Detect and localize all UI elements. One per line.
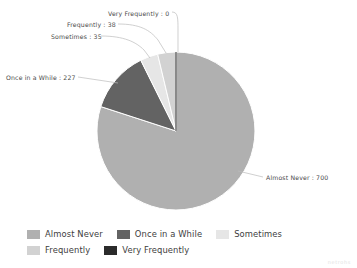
legend-label: Frequently [45,245,90,255]
callout-almost-never: Almost Never : 700 [266,174,328,181]
callout-very-frequently: Very Frequently : 0 [108,10,169,17]
callout-once-in-a-while: Once in a While : 227 [6,74,76,81]
callout-frequently: Frequently : 38 [67,21,116,28]
chart-legend: Almost Never Once in a While Sometimes F… [27,228,337,260]
leader-line-frequently [118,24,166,53]
callout-sometimes: Sometimes : 35 [51,33,102,40]
legend-item-once-in-a-while[interactable]: Once in a While [117,228,202,240]
legend-item-almost-never[interactable]: Almost Never [27,228,103,240]
legend-item-very-frequently[interactable]: Very Frequently [104,244,189,256]
legend-item-frequently[interactable]: Frequently [27,244,90,256]
leader-line-very-frequently [172,12,178,52]
legend-item-sometimes[interactable]: Sometimes [216,228,282,240]
pie-plot-area: Very Frequently : 0 Frequently : 38 Some… [0,0,357,222]
pie-chart-figure: Very Frequently : 0 Frequently : 38 Some… [0,0,357,268]
legend-swatch-icon [104,246,117,255]
legend-swatch-icon [27,246,40,255]
legend-label: Sometimes [234,229,282,239]
legend-swatch-icon [117,230,130,239]
legend-label: Almost Never [45,229,103,239]
legend-swatch-icon [27,230,40,239]
legend-swatch-icon [216,230,229,239]
leader-line-sometimes [101,36,150,58]
watermark: netrohs [328,259,351,265]
leader-line-once-in-a-while [78,77,118,83]
legend-label: Very Frequently [122,245,189,255]
legend-label: Once in a While [135,229,202,239]
